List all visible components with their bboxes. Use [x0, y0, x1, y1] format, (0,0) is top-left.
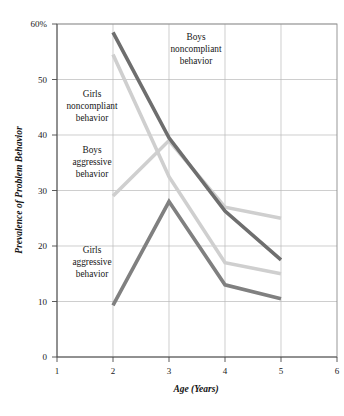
- annotation-line-2: noncompliant: [170, 44, 222, 54]
- y-tick-marks: [52, 24, 57, 357]
- y-tick-label-30: 30: [38, 186, 48, 196]
- annotation-line-1: Boys: [82, 145, 101, 155]
- y-tick-label-0: 0: [43, 352, 48, 362]
- chart-container: 60% 50 40 30 20 10 0 1 2 3 4 5 6 Age (Ye…: [0, 0, 344, 416]
- annotation-line-2: noncompliant: [66, 101, 118, 111]
- x-axis-title: Age (Years): [172, 384, 218, 395]
- annotation-line-2: aggressive: [72, 257, 111, 267]
- annotation-line-1: Girls: [83, 245, 102, 255]
- x-tick-label-4: 4: [223, 366, 228, 376]
- annotation-line-3: behavior: [76, 113, 109, 123]
- y-tick-label-60: 60%: [31, 19, 48, 29]
- y-axis-title: Prevalence of Problem Behavior: [14, 126, 24, 254]
- y-tick-label-20: 20: [38, 241, 48, 251]
- annotation-line-3: behavior: [76, 169, 109, 179]
- annotation-line-1: Boys: [186, 32, 205, 42]
- x-tick-label-1: 1: [55, 366, 60, 376]
- annotation-line-3: behavior: [180, 56, 213, 66]
- x-tick-marks: [57, 357, 337, 362]
- annotation-line-2: aggressive: [72, 157, 111, 167]
- y-tick-label-10: 10: [38, 297, 48, 307]
- x-tick-label-5: 5: [279, 366, 284, 376]
- annotation-line-1: Girls: [83, 89, 102, 99]
- y-tick-label-50: 50: [38, 75, 48, 85]
- line-chart: 60% 50 40 30 20 10 0 1 2 3 4 5 6 Age (Ye…: [0, 0, 344, 416]
- x-tick-label-6: 6: [335, 366, 340, 376]
- x-tick-label-3: 3: [167, 366, 172, 376]
- annotation-line-3: behavior: [76, 269, 109, 279]
- x-tick-label-2: 2: [111, 366, 116, 376]
- y-tick-label-40: 40: [38, 130, 48, 140]
